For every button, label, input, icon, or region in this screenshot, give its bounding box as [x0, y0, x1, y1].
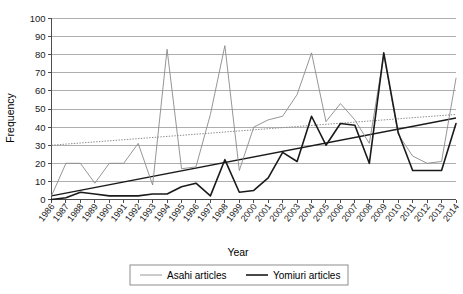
y-tick-label: 20: [35, 158, 46, 169]
frequency-line-chart: 0102030405060708090100 19861987198819891…: [0, 0, 463, 294]
chart-figure: 0102030405060708090100 19861987198819891…: [0, 0, 463, 294]
x-axis-title: Year: [227, 246, 249, 258]
y-tick-label: 100: [30, 13, 46, 24]
y-tick-label: 80: [35, 49, 46, 60]
gridlines-group: [52, 19, 457, 200]
y-axis-group: 0102030405060708090100: [30, 13, 52, 205]
y-axis-title: Frequency: [4, 92, 16, 142]
y-tick-label: 90: [35, 31, 46, 42]
legend-label: Yomiuri articles: [273, 270, 340, 281]
y-tick-label: 40: [35, 122, 46, 133]
x-tick-labels-group: 1986198719881989199019911992199319941995…: [36, 202, 461, 224]
y-tick-label: 30: [35, 140, 46, 151]
y-tick-label: 70: [35, 67, 46, 78]
legend: Asahi articlesYomiuri articles: [130, 265, 348, 285]
y-tick-label: 60: [35, 85, 46, 96]
y-tick-label: 50: [35, 103, 46, 114]
legend-label: Asahi articles: [167, 270, 226, 281]
data-series-group: [52, 46, 457, 200]
y-tick-label: 0: [40, 194, 45, 205]
y-tick-label: 10: [35, 176, 46, 187]
series-line: [52, 53, 457, 200]
x-tick-label: 2014: [441, 202, 461, 224]
